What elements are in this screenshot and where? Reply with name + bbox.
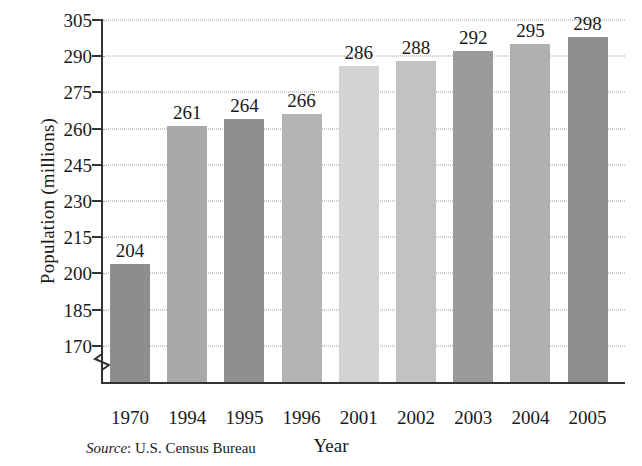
x-tick-label: 2004 (511, 408, 549, 427)
x-tick-label: 2002 (397, 408, 435, 427)
x-tick-label: 1995 (225, 408, 263, 427)
y-tick-label: 260 (30, 119, 92, 138)
y-tick-label: 290 (30, 47, 92, 66)
bar-value-label: 286 (345, 43, 374, 62)
y-tick-label: 170 (30, 336, 92, 355)
y-tick-mark (92, 309, 103, 311)
gridline (103, 20, 625, 21)
bar (339, 66, 379, 382)
bar (282, 114, 322, 382)
bar (396, 61, 436, 382)
y-tick-label: 185 (30, 300, 92, 319)
y-tick-mark (92, 19, 103, 21)
bar-value-label: 298 (573, 14, 602, 33)
bar (167, 126, 207, 382)
y-tick-label: 245 (30, 155, 92, 174)
x-tick-label: 2005 (569, 408, 607, 427)
bar (224, 119, 264, 382)
bar (110, 264, 150, 382)
x-axis-line (101, 382, 625, 384)
y-tick-mark (92, 200, 103, 202)
y-axis-tick-labels: 170185200215230245260275290305 (30, 0, 92, 466)
x-tick-label: 1970 (111, 408, 149, 427)
bar-value-label: 264 (230, 96, 259, 115)
y-tick-label: 215 (30, 228, 92, 247)
y-tick-mark (92, 164, 103, 166)
y-tick-mark (92, 236, 103, 238)
source-text: : U.S. Census Bureau (127, 440, 256, 456)
bar (568, 37, 608, 382)
bar-value-label: 288 (402, 38, 431, 57)
y-tick-mark (92, 128, 103, 130)
bar-value-label: 292 (459, 28, 488, 47)
plot-area: 204261264266286288292295298 197019941995… (101, 20, 625, 382)
bar (510, 44, 550, 382)
source-label: Source (86, 440, 127, 456)
y-tick-label: 230 (30, 192, 92, 211)
x-tick-label: 2001 (340, 408, 378, 427)
bar-value-label: 261 (173, 103, 202, 122)
y-axis-line (101, 20, 103, 372)
y-tick-mark (92, 91, 103, 93)
bar (453, 51, 493, 382)
bar-value-label: 266 (287, 91, 316, 110)
source-note: Source: U.S. Census Bureau (86, 440, 256, 457)
y-tick-label: 200 (30, 264, 92, 283)
y-tick-label: 275 (30, 83, 92, 102)
bar-value-label: 295 (516, 21, 545, 40)
y-tick-mark (92, 272, 103, 274)
population-bar-chart: Population (millions) 170185200215230245… (0, 0, 642, 466)
x-tick-label: 1994 (168, 408, 206, 427)
bar-value-label: 204 (116, 241, 145, 260)
x-tick-label: 2003 (454, 408, 492, 427)
y-tick-mark (92, 55, 103, 57)
y-tick-label: 305 (30, 11, 92, 30)
x-tick-label: 1996 (283, 408, 321, 427)
